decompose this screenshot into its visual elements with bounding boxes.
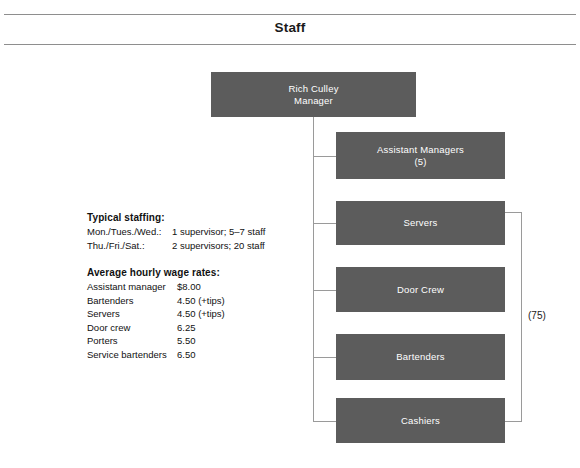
group-bracket-bottom-arm	[505, 421, 522, 422]
wage-row-label: Porters	[87, 334, 177, 348]
typical-staffing-heading: Typical staffing:	[87, 211, 302, 225]
org-node-cashiers-label: Cashiers	[401, 415, 440, 427]
table-row: Porters 5.50	[87, 334, 225, 348]
wage-row-label: Assistant manager	[87, 280, 177, 294]
page-header: Staff	[0, 14, 580, 46]
table-row: Service bartenders 6.50	[87, 348, 225, 362]
wage-row-value: 6.25	[177, 321, 225, 335]
wage-row-label: Door crew	[87, 321, 177, 335]
table-row: Bartenders 4.50 (+tips)	[87, 294, 225, 308]
org-node-door-crew-label: Door Crew	[397, 284, 444, 296]
wage-row-value: 4.50 (+tips)	[177, 307, 225, 321]
wage-row-value: 4.50 (+tips)	[177, 294, 225, 308]
connector-branch-assistant-managers	[313, 156, 336, 157]
table-row: Assistant manager $8.00	[87, 280, 225, 294]
table-row: Thu./Fri./Sat.: 2 supervisors; 20 staff	[87, 239, 265, 253]
staffing-row-value: 1 supervisor; 5–7 staff	[172, 225, 265, 239]
wage-row-value: 6.50	[177, 348, 225, 362]
org-node-manager[interactable]: Rich Culley Manager	[211, 72, 416, 117]
org-node-cashiers[interactable]: Cashiers	[336, 398, 505, 443]
org-node-bartenders[interactable]: Bartenders	[336, 334, 505, 380]
wage-row-label: Servers	[87, 307, 177, 321]
connector-trunk	[313, 156, 314, 421]
wage-row-label: Bartenders	[87, 294, 177, 308]
notes-panel: Typical staffing: Mon./Tues./Wed.: 1 sup…	[87, 211, 302, 361]
staff-org-chart-page: Staff (75) Rich Culley Manager Assistant…	[0, 0, 580, 468]
group-bracket-spine	[521, 212, 522, 421]
typical-staffing-block: Typical staffing: Mon./Tues./Wed.: 1 sup…	[87, 211, 302, 252]
group-bracket-top-arm	[505, 212, 522, 213]
header-rule-top	[4, 14, 576, 15]
connector-branch-cashiers	[313, 421, 336, 422]
org-node-bartenders-label: Bartenders	[396, 351, 444, 363]
wage-rates-table: Assistant manager $8.00 Bartenders 4.50 …	[87, 280, 225, 361]
wage-rates-heading: Average hourly wage rates:	[87, 266, 302, 280]
table-row: Servers 4.50 (+tips)	[87, 307, 225, 321]
connector-branch-door-crew	[313, 290, 336, 291]
connector-manager-stem	[313, 117, 314, 156]
org-node-assistant-managers-label: Assistant Managers (5)	[377, 144, 464, 168]
table-row: Mon./Tues./Wed.: 1 supervisor; 5–7 staff	[87, 225, 265, 239]
connector-branch-servers	[313, 223, 336, 224]
connector-branch-bartenders	[313, 357, 336, 358]
wage-row-value: 5.50	[177, 334, 225, 348]
org-node-assistant-managers[interactable]: Assistant Managers (5)	[336, 132, 505, 179]
staffing-row-value: 2 supervisors; 20 staff	[172, 239, 265, 253]
typical-staffing-table: Mon./Tues./Wed.: 1 supervisor; 5–7 staff…	[87, 225, 265, 252]
wage-rates-block: Average hourly wage rates: Assistant man…	[87, 266, 302, 361]
org-node-door-crew[interactable]: Door Crew	[336, 267, 505, 312]
wage-row-value: $8.00	[177, 280, 225, 294]
group-bracket-count: (75)	[528, 310, 546, 321]
staffing-row-label: Thu./Fri./Sat.:	[87, 239, 172, 253]
header-rule-bottom	[4, 44, 576, 45]
staffing-row-label: Mon./Tues./Wed.:	[87, 225, 172, 239]
org-node-servers[interactable]: Servers	[336, 201, 505, 245]
wage-row-label: Service bartenders	[87, 348, 177, 362]
table-row: Door crew 6.25	[87, 321, 225, 335]
page-title: Staff	[0, 20, 580, 35]
org-node-manager-label: Rich Culley Manager	[288, 83, 338, 107]
org-node-servers-label: Servers	[403, 217, 437, 229]
